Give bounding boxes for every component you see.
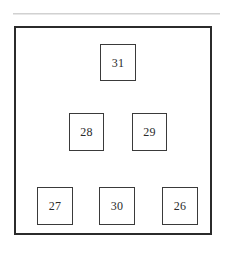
node-label: 27 bbox=[49, 200, 61, 212]
outer-boundary-frame: 312829273026 bbox=[14, 26, 212, 235]
diagram-canvas: 312829273026 bbox=[0, 0, 233, 254]
node-box-26[interactable]: 26 bbox=[162, 187, 198, 225]
node-label: 31 bbox=[112, 57, 124, 69]
scan-artifact-line-secondary bbox=[13, 14, 220, 15]
node-label: 26 bbox=[174, 200, 186, 212]
node-box-31[interactable]: 31 bbox=[100, 44, 136, 81]
node-label: 28 bbox=[80, 126, 92, 138]
node-label: 29 bbox=[143, 126, 155, 138]
node-box-29[interactable]: 29 bbox=[132, 113, 167, 151]
node-box-27[interactable]: 27 bbox=[37, 187, 73, 225]
node-label: 30 bbox=[111, 200, 123, 212]
node-box-28[interactable]: 28 bbox=[69, 113, 104, 151]
node-box-30[interactable]: 30 bbox=[99, 187, 135, 225]
